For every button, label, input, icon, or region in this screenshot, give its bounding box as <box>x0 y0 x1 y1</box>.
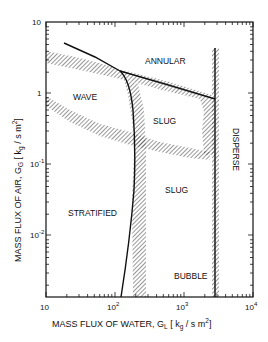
x-tick-10000: 104 <box>245 301 258 312</box>
region-label-bubble: BUBBLE <box>174 271 208 281</box>
region-label-stratified: STRATIFIED <box>68 208 117 218</box>
flow-regime-map: ANNULAR WAVE SLUG SLUG STRATIFIED BUBBLE… <box>0 0 268 342</box>
x-tick-100: 102 <box>107 301 120 312</box>
stratified-slug-line <box>120 71 135 297</box>
y-tick-1: 1 <box>37 89 42 98</box>
region-label-slug-upper: SLUG <box>153 116 176 126</box>
x-tick-1000: 103 <box>176 301 189 312</box>
y-tick-0-1: 10-1 <box>30 158 45 169</box>
region-label-disperse: DISPERSE <box>231 128 241 171</box>
y-tick-10: 10 <box>32 18 41 27</box>
y-tick-0-01: 10-2 <box>30 229 45 240</box>
region-label-slug-lower: SLUG <box>165 185 188 195</box>
lower-transition-band <box>46 96 210 160</box>
x-tick-10: 10 <box>40 303 49 312</box>
region-label-annular: ANNULAR <box>145 56 186 66</box>
region-label-wave: WAVE <box>73 92 97 102</box>
vertical-transition-band <box>124 80 146 297</box>
transition-bands <box>46 48 219 297</box>
x-axis-title: MASS FLUX OF WATER, GL [ kg / s m2] <box>52 317 211 331</box>
y-axis-title: MASS FLUX OF AIR, GG [ kg / s m2] <box>11 118 25 262</box>
right-transition-band <box>200 99 214 155</box>
upper-transition-band <box>46 51 124 80</box>
